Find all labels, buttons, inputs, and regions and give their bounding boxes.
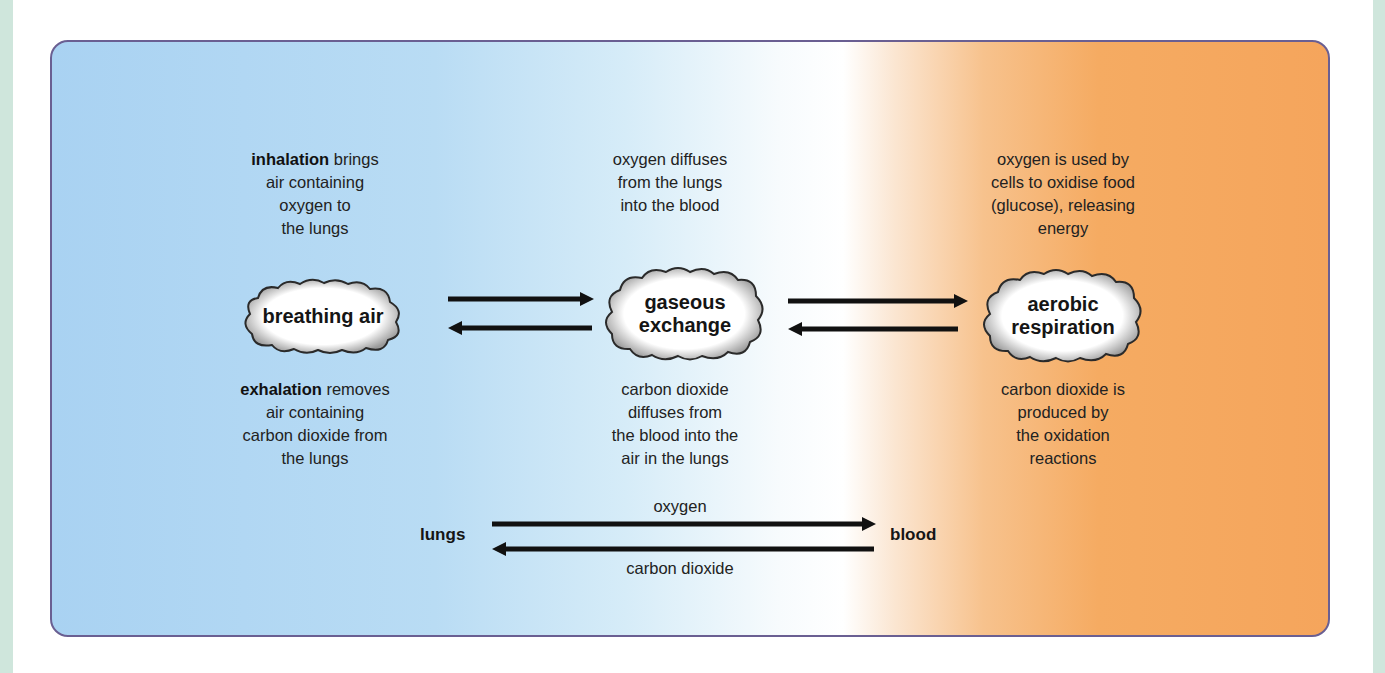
cloud-label-gaseous-exchange: gaseous exchange [600,264,770,364]
exhalation-description: exhalation removes air containing carbon… [215,378,415,470]
blood-label: blood [890,525,936,545]
carbon-dioxide-diffusion-description: carbon dioxide diffuses from the blood i… [580,378,770,470]
carbon-dioxide-arrow-label: carbon dioxide [600,559,760,578]
cloud-label-breathing-air: breathing air [238,276,408,356]
cloud-breathing-air: breathing air [238,276,408,356]
oxygen-arrow-label: oxygen [620,497,740,516]
cloud-aerobic-respiration: aerobic respiration [978,266,1148,366]
oxygen-use-description: oxygen is used by cells to oxidise food … [968,148,1158,240]
carbon-dioxide-production-description: carbon dioxide is produced by the oxidat… [968,378,1158,470]
side-strip-right [1373,0,1385,673]
oxygen-diffusion-description: oxygen diffuses from the lungs into the … [580,148,760,217]
exhalation-term: exhalation [240,380,322,398]
double-arrow-gaseous-aerobic [786,292,971,342]
cloud-label-aerobic-respiration: aerobic respiration [978,266,1148,366]
inhalation-term: inhalation [251,150,329,168]
double-arrow-lungs-blood [488,516,878,556]
inhalation-description: inhalation brings air containing oxygen … [215,148,415,240]
side-strip-left [0,0,13,673]
double-arrow-breathing-gaseous [446,290,596,340]
cloud-gaseous-exchange: gaseous exchange [600,264,770,364]
lungs-label: lungs [420,525,465,545]
